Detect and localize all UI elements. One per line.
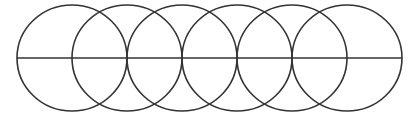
overlapping-circles-diagram — [0, 0, 414, 113]
diagram-canvas — [0, 0, 414, 113]
